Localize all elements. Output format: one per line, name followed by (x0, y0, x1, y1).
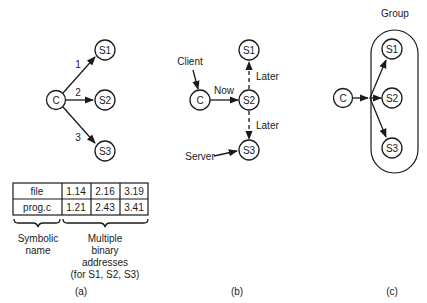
node-s2: S2 (239, 90, 259, 110)
node-s3: S3 (95, 141, 115, 161)
node-s3: S3 (382, 138, 402, 158)
edge-label-3: 3 (75, 132, 81, 143)
node-s3-label: S3 (99, 146, 112, 157)
node-s2-label: S2 (386, 93, 399, 104)
table-row: prog.c 1.21 2.43 3.41 (23, 202, 144, 213)
table-cell-address: 3.41 (124, 202, 144, 213)
node-s1: S1 (382, 39, 402, 59)
panel-c: Group C S1 S2 S3 (c) (334, 8, 419, 297)
diagram-canvas: 1 2 3 C S1 S2 S3 file 1.14 (0, 0, 427, 303)
panel-a: 1 2 3 C S1 S2 S3 file 1.14 (13, 40, 148, 297)
brace-binary-addresses (63, 219, 148, 227)
binary-addresses-label-line4: (for S1, S2, S3) (71, 269, 140, 280)
caption-a: (a) (75, 286, 87, 297)
table-cell-name: prog.c (23, 202, 51, 213)
node-client-label: C (339, 93, 346, 104)
server-callout-arrow (214, 151, 237, 156)
client-callout-label: Client (177, 56, 203, 67)
now-label: Now (214, 85, 235, 96)
server-callout-label: Server (185, 151, 215, 162)
node-s2-label: S2 (243, 95, 256, 106)
table-cell-address: 1.14 (66, 186, 86, 197)
symbolic-name-label-line2: name (25, 245, 50, 256)
node-s1-label: S1 (243, 45, 256, 56)
group-label: Group (381, 8, 409, 19)
client-callout-arrow (193, 70, 198, 89)
later-up-label: Later (256, 71, 279, 82)
node-s1-label: S1 (99, 45, 112, 56)
node-client: C (334, 89, 353, 108)
table-row: file 1.14 2.16 3.19 (31, 186, 145, 197)
binary-addresses-label-line2: binary (91, 245, 118, 256)
node-s3-label: S3 (386, 143, 399, 154)
table-cell-name: file (31, 186, 44, 197)
brace-symbolic-name (14, 219, 60, 227)
table-cell-address: 1.21 (66, 202, 86, 213)
node-s2: S2 (382, 88, 402, 108)
table-cell-address: 2.16 (95, 186, 115, 197)
caption-b: (b) (231, 286, 243, 297)
edge-label-2: 2 (75, 87, 81, 98)
node-client-label: C (196, 95, 203, 106)
node-s3-label: S3 (243, 145, 256, 156)
binary-addresses-label-line3: addresses (82, 257, 128, 268)
table-cell-address: 2.43 (95, 202, 115, 213)
symbolic-name-label-line1: Symbolic (18, 233, 59, 244)
edge-label-1: 1 (75, 59, 81, 70)
later-down-label: Later (256, 120, 279, 131)
node-s1-label: S1 (386, 44, 399, 55)
node-client: C (47, 91, 66, 110)
panel-b: Client Server Now Later Later C S1 S2 S3… (177, 40, 279, 297)
table-cell-address: 3.19 (124, 186, 144, 197)
node-s1: S1 (239, 40, 259, 60)
node-s1: S1 (95, 40, 115, 60)
address-table: file 1.14 2.16 3.19 prog.c 1.21 2.43 3.4… (13, 183, 148, 215)
node-client-label: C (52, 95, 59, 106)
caption-c: (c) (386, 286, 398, 297)
node-s2: S2 (95, 90, 115, 110)
binary-addresses-label-line1: Multiple (88, 233, 123, 244)
node-client: C (190, 90, 210, 110)
node-s3: S3 (239, 140, 259, 160)
node-s2-label: S2 (99, 95, 112, 106)
